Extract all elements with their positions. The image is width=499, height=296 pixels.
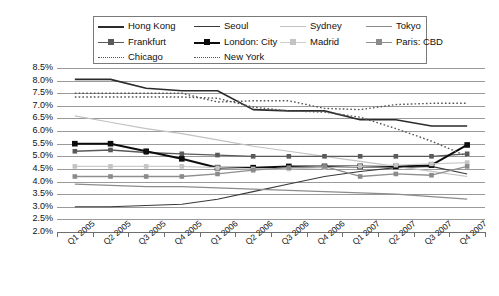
x-axis-tick bbox=[342, 232, 343, 237]
data-point-marker bbox=[108, 148, 113, 153]
legend-item-chicago[interactable]: Chicago bbox=[98, 49, 163, 65]
y-axis-tick-label: 7.0% bbox=[9, 101, 53, 110]
y-axis-tick-label: 4.0% bbox=[9, 177, 53, 186]
legend-label: Chicago bbox=[128, 52, 163, 62]
data-point-marker bbox=[429, 173, 434, 178]
legend-line bbox=[98, 26, 124, 28]
legend-marker bbox=[108, 39, 114, 45]
legend-label: London: City bbox=[224, 37, 277, 47]
y-axis-labels: 8.5%8.0%7.5%7.0%6.5%6.0%5.5%5.0%4.5%4.0%… bbox=[0, 68, 53, 232]
legend-item-new-york[interactable]: New York bbox=[194, 49, 264, 65]
series-line-tokyo bbox=[75, 184, 467, 199]
legend-line bbox=[366, 26, 392, 27]
data-point-marker bbox=[287, 165, 292, 170]
data-point-marker bbox=[72, 141, 78, 147]
y-axis-tick-label: 3.0% bbox=[9, 202, 53, 211]
legend-swatch-chicago bbox=[98, 51, 124, 63]
legend-swatch-hong-kong bbox=[98, 20, 124, 32]
data-point-marker bbox=[179, 156, 185, 162]
data-point-marker bbox=[251, 168, 256, 173]
chart-legend: Hong KongSeoulSydneyTokyo FrankfurtLondo… bbox=[93, 16, 427, 64]
x-axis-tick bbox=[414, 232, 415, 237]
data-point-marker bbox=[358, 174, 363, 179]
data-point-marker bbox=[180, 164, 185, 169]
series-line-hong-kong bbox=[75, 79, 467, 126]
legend-label: Frankfurt bbox=[128, 37, 166, 47]
x-axis-tick bbox=[200, 232, 201, 237]
data-point-marker bbox=[180, 151, 185, 156]
y-axis-tick-label: 8.0% bbox=[9, 76, 53, 85]
legend-row: ChicagoNew York bbox=[94, 49, 426, 65]
legend-item-hong-kong[interactable]: Hong Kong bbox=[98, 18, 176, 34]
data-point-marker bbox=[251, 154, 256, 159]
series-layer bbox=[57, 68, 485, 232]
y-axis-tick-label: 7.5% bbox=[9, 88, 53, 97]
y-axis-tick-label: 6.0% bbox=[9, 126, 53, 135]
data-point-marker bbox=[429, 162, 434, 167]
legend-swatch-frankfurt bbox=[98, 36, 124, 48]
data-point-marker bbox=[180, 174, 185, 179]
x-axis-tick bbox=[128, 232, 129, 237]
data-point-marker bbox=[394, 163, 399, 168]
legend-line bbox=[98, 57, 124, 58]
x-axis-tick bbox=[378, 232, 379, 237]
legend-item-seoul[interactable]: Seoul bbox=[194, 18, 248, 34]
data-point-marker bbox=[143, 148, 149, 154]
y-axis-tick-label: 3.5% bbox=[9, 189, 53, 198]
legend-swatch-paris-cbd bbox=[366, 36, 392, 48]
y-axis-tick-label: 5.0% bbox=[9, 151, 53, 160]
legend-item-london-city[interactable]: London: City bbox=[194, 34, 277, 50]
data-point-marker bbox=[144, 174, 149, 179]
legend-item-tokyo[interactable]: Tokyo bbox=[366, 18, 421, 34]
legend-item-madrid[interactable]: Madrid bbox=[280, 34, 339, 50]
x-axis-tick bbox=[235, 232, 236, 237]
legend-line bbox=[194, 57, 220, 58]
legend-label: Madrid bbox=[310, 37, 339, 47]
legend-label: Tokyo bbox=[396, 21, 421, 31]
legend-marker bbox=[290, 39, 296, 45]
legend-line bbox=[280, 26, 306, 27]
x-axis-tick bbox=[307, 232, 308, 237]
legend-swatch-seoul bbox=[194, 20, 220, 32]
legend-label: Sydney bbox=[310, 21, 342, 31]
data-point-marker bbox=[215, 153, 220, 158]
legend-item-frankfurt[interactable]: Frankfurt bbox=[98, 34, 166, 50]
data-point-marker bbox=[73, 174, 78, 179]
legend-line bbox=[194, 26, 220, 27]
y-axis-tick-label: 4.5% bbox=[9, 164, 53, 173]
data-point-marker bbox=[215, 172, 220, 177]
y-axis-tick-label: 6.5% bbox=[9, 113, 53, 122]
legend-item-paris-cbd[interactable]: Paris: CBD bbox=[366, 34, 443, 50]
data-point-marker bbox=[394, 154, 399, 159]
data-point-marker bbox=[144, 164, 149, 169]
x-axis-tick bbox=[485, 232, 486, 237]
legend-label: Paris: CBD bbox=[396, 37, 443, 47]
data-point-marker bbox=[108, 174, 113, 179]
legend-swatch-madrid bbox=[280, 36, 306, 48]
data-point-marker bbox=[358, 154, 363, 159]
series-line-frankfurt bbox=[75, 150, 467, 156]
data-point-marker bbox=[464, 142, 470, 148]
x-axis-tick bbox=[271, 232, 272, 237]
y-axis-tick-label: 2.5% bbox=[9, 214, 53, 223]
data-point-marker bbox=[215, 165, 220, 170]
data-point-marker bbox=[73, 149, 78, 154]
data-point-marker bbox=[287, 154, 292, 159]
series-line-new-york bbox=[75, 93, 467, 109]
data-point-marker bbox=[322, 164, 327, 169]
y-axis-tick-label: 5.5% bbox=[9, 139, 53, 148]
data-point-marker bbox=[429, 154, 434, 159]
x-axis-tick bbox=[449, 232, 450, 237]
x-axis-tick bbox=[57, 232, 58, 237]
legend-marker bbox=[204, 39, 210, 45]
x-axis-tick bbox=[164, 232, 165, 237]
data-point-marker bbox=[108, 141, 114, 147]
data-point-marker bbox=[322, 154, 327, 159]
data-point-marker bbox=[73, 164, 78, 169]
legend-label: Seoul bbox=[224, 21, 248, 31]
chart-screenshot: Hong KongSeoulSydneyTokyo FrankfurtLondo… bbox=[0, 0, 499, 296]
legend-label: Hong Kong bbox=[128, 21, 176, 31]
legend-row: FrankfurtLondon: CityMadridParis: CBD bbox=[94, 34, 426, 50]
legend-item-sydney[interactable]: Sydney bbox=[280, 18, 342, 34]
legend-swatch-sydney bbox=[280, 20, 306, 32]
